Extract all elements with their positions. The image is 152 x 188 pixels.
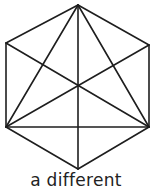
edge-lower_right-bottom [78,127,149,169]
caption-text: a different [0,170,152,188]
edge-bottom-lower_left [6,127,78,169]
hexagon-diagram [0,0,152,188]
edge-top-upper_right [78,5,149,45]
